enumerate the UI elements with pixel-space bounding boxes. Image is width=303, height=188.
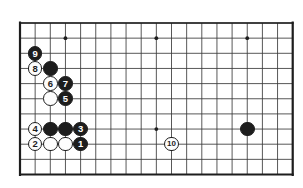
stone-move-7[interactable]: 7 [58, 76, 73, 91]
stone-black-16[interactable] [240, 122, 255, 137]
stone-move-number: 1 [78, 139, 83, 149]
stone-move-number: 6 [48, 79, 53, 89]
stone-white-5[interactable] [43, 91, 58, 106]
stone-black-2[interactable] [43, 61, 58, 76]
stone-move-number: 2 [32, 139, 37, 149]
stone-move-3[interactable]: 3 [73, 122, 88, 137]
stone-move-6[interactable]: 6 [43, 76, 58, 91]
star-point [154, 36, 158, 40]
stone-move-number: 8 [32, 63, 37, 72]
stone-move-5[interactable]: 5 [58, 91, 73, 106]
stone-black-9[interactable] [58, 122, 73, 137]
star-point [154, 127, 158, 131]
stone-move-number: 9 [32, 48, 37, 58]
stone-move-number: 10 [167, 140, 176, 148]
go-board-diagram: 98675432110 [0, 0, 303, 188]
stone-move-9[interactable]: 9 [28, 46, 43, 61]
stone-black-8[interactable] [43, 122, 58, 137]
stone-move-number: 3 [78, 124, 83, 134]
stone-move-number: 7 [63, 79, 68, 89]
stone-move-number: 5 [63, 94, 68, 104]
stone-move-8[interactable]: 8 [28, 61, 43, 76]
stone-white-12[interactable] [43, 137, 58, 152]
stone-move-10[interactable]: 10 [164, 137, 179, 152]
star-point [245, 36, 249, 40]
stone-white-13[interactable] [58, 137, 73, 152]
stone-move-number: 4 [32, 124, 37, 134]
star-point [64, 36, 68, 40]
